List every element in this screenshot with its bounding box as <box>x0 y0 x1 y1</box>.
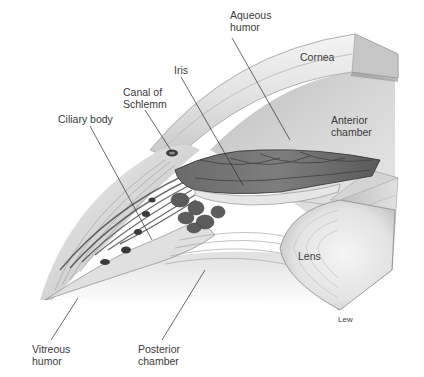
label-vitreous-humor: Vitreous humor <box>32 343 70 367</box>
label-aqueous-humor: Aqueous humor <box>230 9 271 33</box>
cornea-block-face <box>352 34 398 78</box>
leader-line-vitreous-humor <box>51 298 78 340</box>
label-iris: Iris <box>174 64 188 76</box>
label-ciliary-body: Ciliary body <box>58 113 113 125</box>
eye-illustration <box>0 0 424 377</box>
artist-credit: Lew <box>338 315 353 325</box>
label-canal-of-schlemm: Canal of Schlemm <box>123 86 167 110</box>
label-posterior-chamber: Posterior chamber <box>138 343 180 367</box>
eye-anatomy-diagram: Aqueous humor Cornea Iris Canal of Schle… <box>0 0 424 377</box>
label-cornea: Cornea <box>300 51 334 63</box>
label-lens: Lens <box>298 250 321 262</box>
label-anterior-chamber: Anterior chamber <box>331 114 372 138</box>
